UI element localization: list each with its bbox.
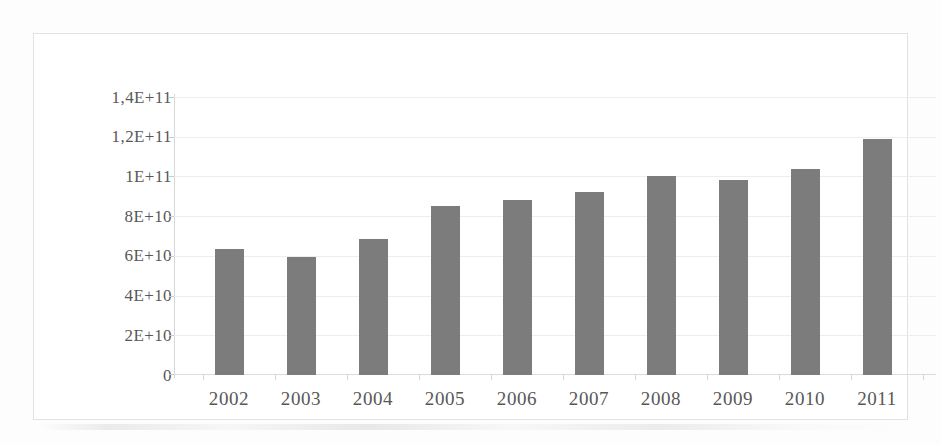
plot-area — [174, 97, 936, 375]
y-tick-label: 6E+10 — [72, 247, 172, 264]
x-tick-label: 2005 — [409, 389, 481, 408]
x-tickmark — [923, 375, 924, 380]
x-tickmark — [851, 375, 852, 380]
y-tick-label: 1,2E+11 — [72, 128, 172, 145]
x-tick-label: 2008 — [625, 389, 697, 408]
bar-2005[interactable] — [431, 206, 460, 375]
bar-2004[interactable] — [359, 239, 388, 375]
x-tick-label: 2010 — [769, 389, 841, 408]
x-tickmark — [419, 375, 420, 380]
scan-artifact — [40, 424, 900, 430]
y-tick-label: 2E+10 — [72, 327, 172, 344]
y-tick-label: 8E+10 — [72, 208, 172, 225]
x-tick-label: 2003 — [265, 389, 337, 408]
bar-2009[interactable] — [719, 180, 748, 375]
x-tick-label: 2006 — [481, 389, 553, 408]
x-tick-label: 2002 — [193, 389, 265, 408]
x-tick-label: 2007 — [553, 389, 625, 408]
x-axis-labels: 2002 2003 2004 2005 2006 2007 2008 2009 … — [174, 389, 936, 419]
x-tickmark — [563, 375, 564, 380]
y-tick-label: 4E+10 — [72, 287, 172, 304]
x-tick-label: 2011 — [841, 389, 913, 408]
x-tick-label: 2004 — [337, 389, 409, 408]
y-tick-label: 1,4E+11 — [72, 89, 172, 106]
bar-2003[interactable] — [287, 257, 316, 375]
bar-2010[interactable] — [791, 169, 820, 376]
x-tickmark — [491, 375, 492, 380]
x-tickmark — [635, 375, 636, 380]
y-tick-label: 0 — [72, 367, 172, 384]
x-tickmark — [779, 375, 780, 380]
bar-2007[interactable] — [575, 192, 604, 375]
bar-2008[interactable] — [647, 176, 676, 375]
x-tickmark — [707, 375, 708, 380]
chart-frame: 1,4E+11 1,2E+11 1E+11 8E+10 6E+10 4E+10 … — [33, 33, 908, 420]
scanned-page: 1,4E+11 1,2E+11 1E+11 8E+10 6E+10 4E+10 … — [0, 0, 941, 445]
y-tick-label: 1E+11 — [72, 168, 172, 185]
x-tickmark — [275, 375, 276, 380]
x-tickmark — [347, 375, 348, 380]
bars-layer — [174, 97, 936, 375]
y-axis-labels: 1,4E+11 1,2E+11 1E+11 8E+10 6E+10 4E+10 … — [72, 67, 172, 387]
bar-2011[interactable] — [863, 139, 892, 375]
bar-2006[interactable] — [503, 200, 532, 375]
x-tick-label: 2009 — [697, 389, 769, 408]
x-tickmark — [203, 375, 204, 380]
bar-2002[interactable] — [215, 249, 244, 375]
